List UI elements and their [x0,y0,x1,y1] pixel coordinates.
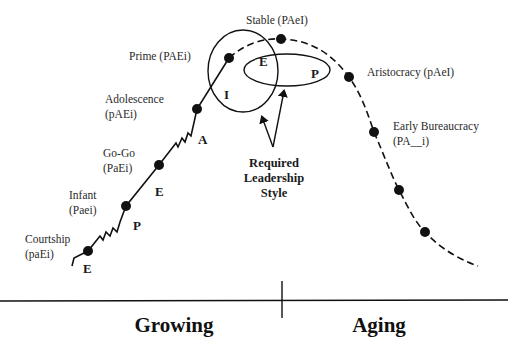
stage-dot-adolescence [192,104,202,114]
lifecycle-diagram: E P I Required Leadership Style Stable (… [0,0,528,345]
integrator-circle [208,30,278,112]
label-prime: Prime (PAEi) [129,50,191,63]
stage-dot-later-2 [420,227,430,237]
stage-dot-prime [224,53,234,63]
label-courtship-name: Courtship [25,233,71,246]
set-letter-i: I [224,87,229,102]
set-letter-p: P [311,66,319,81]
phase-label-growing: Growing [135,313,214,337]
transition-letter-gogo: E [155,184,164,199]
stage-dot-gogo [154,160,164,170]
label-gogo-name: Go-Go [103,147,135,159]
label-aristocracy: Aristocracy (pAeI) [367,66,454,79]
phase-label-aging: Aging [352,313,406,337]
time-axis [0,300,508,301]
label-early-bureaucracy-name: Early Bureaucracy [393,120,479,133]
stage-dot-stable [276,34,286,44]
callout-arrow-to-ellipse [273,91,284,147]
label-courtship-code: (paEi) [25,248,54,261]
label-gogo-code: (PaEi) [103,162,133,175]
label-adolescence-code: (pAEi) [105,108,137,121]
callout-line-3: Style [261,186,288,200]
set-letter-e: E [259,54,268,69]
stage-dot-later-1 [394,185,404,195]
stage-dot-courtship [83,246,93,256]
stage-dot-aristocracy [344,72,354,82]
growing-curve [72,58,229,266]
callout-line-2: Leadership [244,171,304,185]
transition-letter-infant: P [133,218,141,233]
label-stable: Stable (PAeI) [246,14,308,27]
callout-arrow-to-circle [262,117,273,147]
stage-dot-early-bureaucracy [369,127,379,137]
callout-line-1: Required [249,156,299,170]
stage-dot-infant [121,201,131,211]
label-early-bureaucracy-code: (PA__i) [393,135,429,148]
transition-letter-adolescence: A [198,132,208,147]
transition-letter-courtship: E [83,261,92,276]
label-infant-name: Infant [69,189,97,201]
label-adolescence-name: Adolescence [105,93,164,105]
label-infant-code: (Paei) [69,204,97,217]
